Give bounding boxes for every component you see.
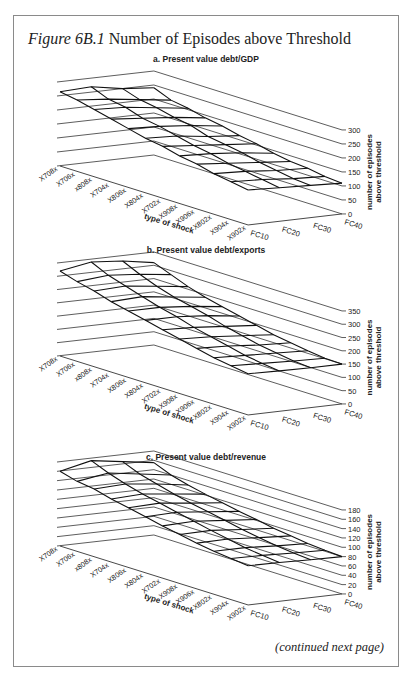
surface-line [231, 358, 325, 366]
z-tick-label: 350 [348, 307, 361, 316]
surface-line [197, 343, 291, 349]
gridline [57, 305, 346, 364]
z-axis-title: number of episodes [365, 513, 374, 590]
z-tick-label: 150 [348, 168, 361, 177]
surface-line [123, 89, 311, 186]
z-tick-label: 100 [348, 182, 361, 191]
surface-line [154, 263, 342, 364]
gridline [57, 71, 346, 130]
surface-line [197, 161, 291, 164]
floor-edge [60, 546, 342, 605]
z-tick-label: 50 [348, 387, 356, 396]
surface-line [197, 536, 291, 543]
surface-line [231, 176, 325, 181]
z-axis-title: above threshold [374, 326, 383, 388]
surface-line [163, 520, 257, 526]
y-tick-label: FC30 [312, 411, 332, 425]
panel-title: a. Present value debt/GDP [153, 54, 259, 64]
z-axis-title: number of episodes [365, 319, 374, 396]
y-tick-label: FC30 [312, 221, 332, 235]
y-tick-label: FC20 [281, 415, 301, 429]
gridline [57, 498, 346, 557]
panel-title: c. Present value debt/revenue [146, 452, 266, 462]
z-axis-title: above threshold [374, 141, 383, 203]
gridline [57, 279, 346, 338]
surface-panel-c: c. Present value debt/revenue02040608010… [37, 451, 383, 622]
gridline [57, 113, 346, 172]
gridline [57, 460, 346, 519]
surface-line [248, 183, 342, 190]
surface-panel-a: a. Present value debt/GDP050100150200250… [37, 54, 383, 242]
y-tick-label: FC10 [250, 418, 270, 432]
gridline [57, 252, 346, 311]
z-tick-label: 100 [348, 543, 361, 552]
z-tick-label: 20 [348, 581, 356, 590]
y-tick-label: FC10 [250, 608, 270, 622]
y-tick-label: FC20 [281, 225, 301, 239]
z-tick-label: 120 [348, 534, 361, 543]
z-tick-label: 50 [348, 196, 356, 205]
surface-line [128, 126, 222, 129]
y-tick-label: FC40 [343, 217, 363, 231]
surface-line [111, 494, 205, 499]
z-tick-label: 40 [348, 571, 356, 580]
surface-line [146, 316, 240, 321]
surface-line [60, 261, 154, 271]
continued-note: (continued next page) [275, 640, 384, 655]
z-tick-label: 300 [348, 126, 361, 135]
floor-edge [60, 356, 342, 415]
y-tick-label: FC40 [343, 407, 363, 421]
surface-charts: a. Present value debt/GDP050100150200250… [0, 0, 412, 680]
surface-line [111, 117, 205, 119]
z-tick-label: 250 [348, 334, 361, 343]
z-tick-label: 200 [348, 347, 361, 356]
surface-line [111, 297, 205, 302]
surface-line [60, 87, 154, 92]
z-tick-label: 140 [348, 525, 361, 534]
z-tick-label: 250 [348, 140, 361, 149]
gridline [57, 526, 346, 585]
z-tick-label: 150 [348, 360, 361, 369]
gridline [57, 292, 346, 351]
y-tick-label: FC40 [343, 597, 363, 611]
z-axis-title: above threshold [374, 521, 383, 583]
z-tick-label: 60 [348, 562, 356, 571]
surface-line [146, 511, 240, 516]
z-axis-title: number of episodes [365, 133, 374, 210]
surface-line [94, 286, 188, 291]
floor-edge [60, 166, 342, 225]
y-tick-label: FC20 [281, 605, 301, 619]
z-tick-label: 80 [348, 553, 356, 562]
surface-line [94, 484, 188, 489]
gridline [57, 470, 346, 529]
surface-line [146, 136, 240, 139]
z-tick-label: 200 [348, 154, 361, 163]
surface-line [77, 99, 171, 100]
z-tick-label: 180 [348, 506, 361, 515]
surface-line [94, 107, 188, 109]
surface-line [163, 325, 257, 329]
z-tick-label: 100 [348, 373, 361, 382]
panel-title: b. Present value debt/exports [147, 245, 266, 255]
y-tick-label: FC30 [312, 601, 332, 615]
surface-panel-b: b. Present value debt/exports05010015020… [37, 245, 383, 432]
gridline [57, 488, 346, 547]
z-tick-label: 160 [348, 515, 361, 524]
surface-line [77, 274, 171, 281]
z-tick-label: 300 [348, 320, 361, 329]
surface-line [154, 463, 342, 557]
y-tick-label: FC10 [250, 228, 270, 242]
